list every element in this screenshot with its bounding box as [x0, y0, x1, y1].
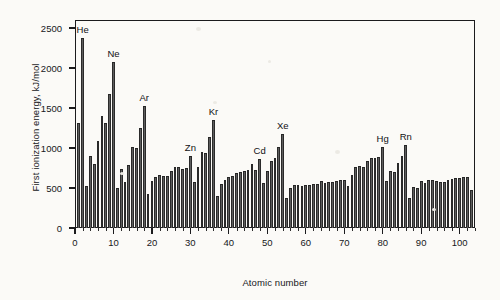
bar [424, 183, 427, 228]
x-minor-tick [352, 228, 353, 231]
bar [108, 94, 111, 228]
peak-label-he: He [77, 24, 89, 35]
bar [293, 185, 296, 228]
bar [143, 106, 146, 228]
bar [366, 161, 369, 228]
peak-label-kr: Kr [209, 106, 219, 117]
bar [270, 161, 273, 228]
peak-label-rn: Rn [400, 131, 412, 142]
x-minor-tick [98, 228, 99, 231]
y-tick-label: 0 [28, 223, 62, 234]
bar [435, 181, 438, 228]
y-tick-label: 1000 [28, 143, 62, 154]
x-minor-tick [329, 228, 330, 231]
x-tick-mark [382, 228, 383, 234]
peak-label-ar: Ar [139, 92, 149, 103]
x-minor-tick [337, 228, 338, 231]
x-minor-tick [360, 228, 361, 231]
x-minor-tick [375, 228, 376, 231]
bar [335, 181, 338, 228]
bar [447, 180, 450, 228]
bar [254, 170, 257, 228]
x-minor-tick [437, 228, 438, 231]
bar [370, 158, 373, 228]
bar [231, 176, 234, 228]
bar [93, 164, 96, 228]
y-axis-ticks: 05001000150020002500 [0, 0, 75, 300]
x-minor-tick [321, 228, 322, 231]
x-tick-label: 90 [406, 237, 436, 248]
bar [316, 184, 319, 228]
bar [339, 180, 342, 228]
bar [101, 116, 104, 228]
bar [343, 180, 346, 228]
x-minor-tick [183, 228, 184, 231]
bar [162, 176, 165, 228]
bar [185, 168, 188, 228]
x-minor-tick [313, 228, 314, 231]
bar [285, 198, 288, 228]
bar [204, 153, 207, 228]
bar [320, 181, 323, 228]
bar [412, 187, 415, 228]
x-tick-mark [151, 228, 152, 234]
bar [262, 183, 265, 228]
peak-label-ne: Ne [107, 48, 119, 59]
bar [466, 177, 469, 228]
x-tick-label: 60 [291, 237, 321, 248]
y-tick-label: 500 [28, 183, 62, 194]
bar [124, 182, 127, 228]
y-tick-label: 1500 [28, 103, 62, 114]
x-minor-tick [160, 228, 161, 231]
bar [308, 185, 311, 228]
x-minor-tick [83, 228, 84, 231]
bar [458, 178, 461, 228]
bar [277, 147, 280, 228]
bar [220, 184, 223, 228]
peak-label-xe: Xe [277, 120, 289, 131]
bar [85, 186, 88, 228]
bar [374, 158, 377, 228]
x-minor-tick [90, 228, 91, 231]
bar [401, 156, 404, 228]
x-minor-tick [137, 228, 138, 231]
x-tick-label: 10 [98, 237, 128, 248]
x-tick-mark [74, 228, 75, 234]
bar [216, 196, 219, 228]
bar [281, 134, 284, 228]
bar [385, 181, 388, 228]
bar [451, 179, 454, 228]
bar [227, 177, 230, 228]
bar [166, 176, 169, 228]
x-minor-tick [198, 228, 199, 231]
y-tick-label: 2500 [28, 23, 62, 34]
bar [301, 186, 304, 228]
x-tick-mark [267, 228, 268, 234]
bar [135, 148, 138, 228]
x-minor-tick [206, 228, 207, 231]
x-minor-tick [106, 228, 107, 231]
x-minor-tick [129, 228, 130, 231]
bar [170, 171, 173, 228]
bar [251, 164, 254, 228]
bar [381, 147, 384, 228]
x-tick-label: 100 [445, 237, 475, 248]
bar [354, 167, 357, 228]
x-tick-label: 30 [175, 237, 205, 248]
bar [193, 182, 196, 228]
x-minor-tick [429, 228, 430, 231]
bar [235, 173, 238, 228]
bar [304, 185, 307, 228]
bar [397, 163, 400, 228]
x-tick-label: 80 [368, 237, 398, 248]
bar [81, 38, 84, 228]
x-minor-tick [290, 228, 291, 231]
bar [324, 183, 327, 228]
bar [351, 175, 354, 228]
bar [358, 166, 361, 228]
x-minor-tick [298, 228, 299, 231]
bar [120, 169, 123, 228]
peak-label-hg: Hg [377, 133, 389, 144]
bar [151, 181, 154, 228]
x-tick-label: 0 [60, 237, 90, 248]
